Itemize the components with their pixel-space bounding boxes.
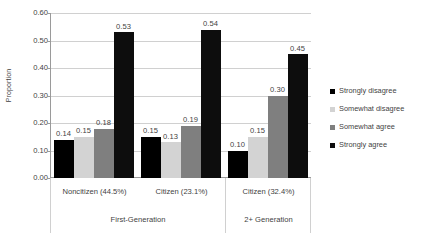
category-label: Noncitizen (44.5%) [51, 178, 138, 205]
category-axis-divider [225, 178, 226, 233]
bar-groups: 0.140.150.180.530.150.130.190.540.100.15… [50, 13, 311, 178]
bar [228, 151, 248, 179]
legend-swatch-icon [330, 143, 335, 148]
bar [141, 137, 161, 178]
y-tick-mark [47, 68, 50, 69]
bar-value-label: 0.45 [283, 45, 313, 53]
bar-group: 0.100.150.300.45 [224, 13, 311, 178]
legend-swatch-icon [330, 125, 335, 130]
bar [94, 129, 114, 179]
legend-item[interactable]: Somewhat disagree [330, 102, 423, 116]
y-axis-tick-labels: 0.600.500.400.300.200.100.00 [20, 0, 48, 233]
plot-area: 0.140.150.180.530.150.130.190.540.100.15… [50, 13, 311, 178]
legend-label: Strongly disagree [339, 87, 397, 94]
bar [288, 54, 308, 178]
legend-item[interactable]: Strongly disagree [330, 84, 423, 98]
bar-chart: Proportion 0.600.500.400.300.200.100.00 … [0, 0, 423, 233]
legend-label: Somewhat disagree [339, 105, 404, 112]
bar-group: 0.150.130.190.54 [137, 13, 224, 178]
category-axis-tier1: Noncitizen (44.5%)Citizen (23.1%)Citizen… [51, 178, 310, 205]
y-tick-label: 0.50 [20, 37, 48, 45]
y-axis-title: Proportion [5, 54, 12, 118]
bar [161, 142, 181, 178]
legend-swatch-icon [330, 107, 335, 112]
category-axis-tier2: First-Generation2+ Generation [51, 205, 310, 233]
bar [114, 32, 134, 178]
legend-item[interactable]: Somewhat agree [330, 120, 423, 134]
bar [74, 137, 94, 178]
bar [201, 30, 221, 179]
category-label: Citizen (32.4%) [225, 178, 312, 205]
y-tick-label: 0.60 [20, 9, 48, 17]
y-tick-mark [47, 13, 50, 14]
bar-value-label: 0.53 [109, 23, 139, 31]
bar [54, 140, 74, 179]
legend: Strongly disagreeSomewhat disagreeSomewh… [330, 84, 423, 156]
y-tick-label: 0.30 [20, 92, 48, 100]
legend-swatch-icon [330, 89, 335, 94]
y-tick-mark [47, 41, 50, 42]
category-axis: Noncitizen (44.5%)Citizen (23.1%)Citizen… [50, 178, 311, 233]
category-label: Citizen (23.1%) [138, 178, 225, 205]
bar [268, 96, 288, 179]
bar-value-label: 0.54 [196, 20, 226, 28]
y-tick-mark [47, 123, 50, 124]
y-tick-mark [47, 151, 50, 152]
y-tick-label: 0.00 [20, 174, 48, 182]
y-tick-label: 0.10 [20, 147, 48, 155]
generation-group-label: First-Generation [51, 205, 225, 233]
bar [248, 137, 268, 178]
legend-label: Somewhat agree [339, 123, 395, 130]
bar [181, 126, 201, 178]
legend-item[interactable]: Strongly agree [330, 138, 423, 152]
y-tick-label: 0.20 [20, 119, 48, 127]
generation-group-label: 2+ Generation [225, 205, 312, 233]
bar-group: 0.140.150.180.53 [50, 13, 137, 178]
y-tick-label: 0.40 [20, 64, 48, 72]
y-tick-mark [47, 96, 50, 97]
legend-label: Strongly agree [339, 141, 387, 148]
